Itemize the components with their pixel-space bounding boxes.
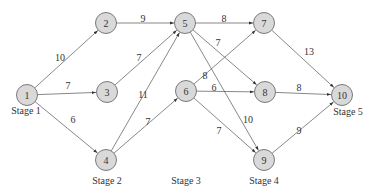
- node-label: 6: [184, 86, 189, 97]
- arrow-line: [275, 92, 331, 94]
- edge-weight: 6: [71, 114, 76, 125]
- arrow-line: [37, 92, 96, 94]
- node-6: 6: [176, 81, 197, 102]
- edge-weight: 6: [212, 82, 217, 93]
- arrow-line: [194, 98, 256, 153]
- node-5: 5: [175, 13, 196, 34]
- edge-weight: 9: [141, 13, 146, 24]
- node-9: 9: [254, 150, 275, 171]
- node-label: 7: [262, 18, 267, 29]
- arrow-line: [35, 102, 97, 153]
- edge-1-4: 6: [35, 102, 97, 153]
- edge-weight: 7: [137, 52, 142, 63]
- edge-weight: 7: [66, 80, 71, 91]
- edge-2-5: 9: [117, 13, 175, 24]
- stages-layer: Stage 1Stage 2Stage 3Stage 4Stage 5: [11, 105, 363, 186]
- arrow-line: [272, 102, 333, 153]
- edge-weight: 10: [55, 52, 65, 63]
- stage-label: Stage 1: [11, 105, 41, 116]
- arrow-line: [196, 91, 254, 92]
- node-2: 2: [96, 13, 117, 34]
- edge-6-8: 6: [196, 82, 254, 93]
- edge-weight: 8: [297, 82, 302, 93]
- node-label: 3: [105, 87, 110, 98]
- node-label: 5: [183, 18, 188, 29]
- node-8: 8: [255, 82, 276, 103]
- node-1: 1: [17, 85, 38, 106]
- node-10: 10: [332, 85, 353, 106]
- edge-8-10: 8: [275, 82, 331, 95]
- node-label: 2: [104, 18, 109, 29]
- node-3: 3: [97, 82, 118, 103]
- edge-3-5: 7: [115, 30, 177, 85]
- edge-4-6: 7: [114, 98, 178, 153]
- diagram-svg: 10769711787108671389 12345678910 Stage 1…: [0, 0, 372, 196]
- edge-weight: 9: [297, 125, 302, 136]
- nodes-layer: 12345678910: [17, 13, 353, 171]
- edge-weight: 11: [138, 89, 148, 100]
- edge-weight: 7: [146, 116, 151, 127]
- node-7: 7: [254, 13, 275, 34]
- stage-label: Stage 4: [249, 175, 279, 186]
- edge-weight: 8: [222, 13, 227, 24]
- edge-9-10: 9: [272, 102, 333, 153]
- edge-5-7: 8: [196, 13, 254, 24]
- node-label: 9: [262, 155, 267, 166]
- edge-weight: 7: [216, 37, 221, 48]
- node-label: 8: [263, 87, 268, 98]
- stage-label: Stage 3: [171, 175, 201, 186]
- edge-weight: 7: [217, 125, 222, 136]
- edge-weight: 10: [243, 114, 253, 125]
- edge-weight: 13: [304, 46, 314, 57]
- stage-label: Stage 2: [92, 175, 122, 186]
- stage-label: Stage 5: [333, 106, 363, 117]
- arrow-line: [115, 30, 177, 85]
- edge-4-5: 11: [111, 33, 179, 151]
- edge-7-10: 13: [272, 30, 334, 87]
- node-4: 4: [96, 150, 117, 171]
- edge-weight: 8: [203, 70, 208, 81]
- edge-6-9: 7: [194, 98, 256, 153]
- arrow-line: [272, 30, 334, 87]
- node-label: 1: [25, 90, 30, 101]
- node-label: 4: [104, 155, 109, 166]
- node-label: 10: [337, 90, 347, 101]
- edge-1-3: 7: [37, 80, 96, 95]
- network-diagram: 10769711787108671389 12345678910 Stage 1…: [0, 0, 372, 196]
